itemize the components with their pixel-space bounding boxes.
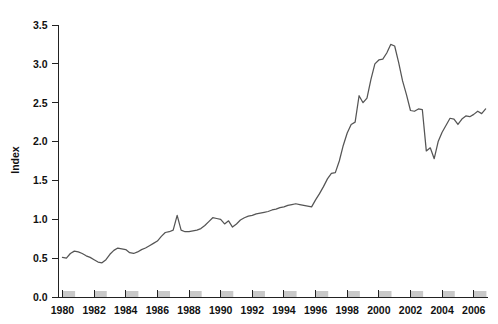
x-axis-band — [474, 291, 487, 297]
x-tick-label: 1980 — [51, 304, 75, 316]
y-tick-label: 3.0 — [33, 58, 48, 70]
x-tick-label: 1994 — [272, 304, 296, 316]
x-axis-band — [347, 291, 360, 297]
x-axis-band — [252, 291, 265, 297]
x-axis-band — [316, 291, 329, 297]
x-tick-label: 1992 — [241, 304, 265, 316]
y-axis-label: Index — [9, 146, 21, 174]
x-axis-band — [62, 291, 75, 297]
chart-background — [0, 0, 498, 324]
x-tick-label: 2006 — [462, 304, 486, 316]
x-tick-label: 1988 — [177, 304, 201, 316]
y-tick-label: 1.5 — [33, 174, 48, 186]
x-axis-band — [379, 291, 392, 297]
chart-figure: 0.00.51.01.52.02.53.03.5 Index 198019821… — [0, 0, 498, 324]
x-tick-label: 1982 — [82, 304, 106, 316]
x-tick-label: 1986 — [146, 304, 170, 316]
y-tick-label: 0.5 — [33, 252, 48, 264]
x-axis-band — [410, 291, 423, 297]
y-tick-label: 2.0 — [33, 135, 48, 147]
x-tick-label: 2004 — [430, 304, 454, 316]
y-tick-label: 1.0 — [33, 213, 48, 225]
x-axis-band — [284, 291, 297, 297]
x-axis-band — [126, 291, 139, 297]
x-axis-band — [157, 291, 170, 297]
x-axis-band — [221, 291, 234, 297]
x-tick-label: 2000 — [367, 304, 391, 316]
y-tick-label: 3.5 — [33, 19, 48, 31]
x-tick-label: 1984 — [114, 304, 138, 316]
x-tick-label: 1996 — [304, 304, 328, 316]
line-chart-canvas: 0.00.51.01.52.02.53.03.5 Index 198019821… — [0, 0, 498, 324]
x-tick-label: 1990 — [209, 304, 233, 316]
x-tick-label: 2002 — [399, 304, 423, 316]
y-tick-label: 0.0 — [33, 291, 48, 303]
x-axis-band — [442, 291, 455, 297]
y-tick-label: 2.5 — [33, 97, 48, 109]
x-axis-band — [189, 291, 202, 297]
x-tick-label: 1998 — [336, 304, 360, 316]
x-axis-band — [94, 291, 107, 297]
